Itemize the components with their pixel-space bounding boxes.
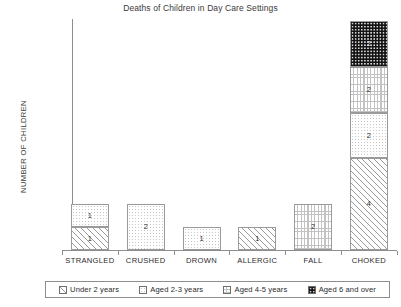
bar-segment-choked-aged-6-and-over: 2 <box>350 21 388 67</box>
legend-item-aged-2-3-years[interactable]: Aged 2-3 years <box>139 285 203 294</box>
x-axis-tick <box>341 251 342 255</box>
bar-segment-value: 2 <box>367 132 371 139</box>
bar-segment-value: 1 <box>199 235 203 242</box>
bar-segment-strangled-aged-2-3-years: 1 <box>71 204 109 227</box>
bar-segment-choked-aged-2-3-years: 2 <box>350 113 388 159</box>
bar-segment-drown-aged-2-3-years: 1 <box>183 227 221 250</box>
bar-segment-value: 2 <box>367 40 371 47</box>
x-axis-tick <box>229 251 230 255</box>
chart-legend: Under 2 yearsAged 2-3 yearsAged 4-5 year… <box>45 281 390 298</box>
x-axis-tick <box>397 251 398 255</box>
x-axis-label-choked: CHOKED <box>341 256 397 265</box>
x-axis-label-crushed: CRUSHED <box>118 256 174 265</box>
legend-label: Aged 4-5 years <box>234 285 287 294</box>
x-axis-tick <box>285 251 286 255</box>
legend-item-under-2-years[interactable]: Under 2 years <box>59 285 119 294</box>
legend-item-aged-6-and-over[interactable]: Aged 6 and over <box>308 285 376 294</box>
x-axis-tick <box>118 251 119 255</box>
legend-label: Under 2 years <box>70 285 119 294</box>
legend-swatch-icon-under-2-years <box>59 286 67 294</box>
x-axis-tick <box>62 251 63 255</box>
legend-label: Aged 2-3 years <box>150 285 203 294</box>
bar-segment-value: 2 <box>367 86 371 93</box>
bar-segment-value: 2 <box>144 223 148 230</box>
x-axis-tick <box>174 251 175 255</box>
x-axis-label-allergic: ALLERGIC <box>229 256 285 265</box>
bar-segment-value: 1 <box>88 212 92 219</box>
x-axis-label-drown: DROWN <box>174 256 230 265</box>
bar-segment-value: 1 <box>88 235 92 242</box>
legend-swatch-icon-aged-6-and-over <box>308 286 316 294</box>
bar-segment-value: 4 <box>367 200 371 207</box>
bar-segment-allergic-under-2-years: 1 <box>238 227 276 250</box>
legend-item-aged-4-5-years[interactable]: Aged 4-5 years <box>223 285 287 294</box>
bar-segment-strangled-under-2-years: 1 <box>71 227 109 250</box>
bar-segment-fall-aged-4-5-years: 2 <box>294 204 332 250</box>
chart-container: Deaths of Children in Day Care Settings … <box>0 0 401 307</box>
bar-segment-crushed-aged-2-3-years: 2 <box>127 204 165 250</box>
x-axis-label-fall: FALL <box>285 256 341 265</box>
x-axis-label-strangled: STRANGLED <box>62 256 118 265</box>
legend-label: Aged 6 and over <box>319 285 376 294</box>
bar-segment-choked-aged-4-5-years: 2 <box>350 67 388 113</box>
legend-swatch-icon-aged-2-3-years <box>139 286 147 294</box>
bar-segment-choked-under-2-years: 4 <box>350 158 388 250</box>
bar-segment-value: 1 <box>255 235 259 242</box>
bar-segment-value: 2 <box>311 223 315 230</box>
legend-swatch-icon-aged-4-5-years <box>223 286 231 294</box>
